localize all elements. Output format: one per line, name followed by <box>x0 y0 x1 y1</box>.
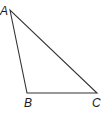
triangle-diagram: A B C <box>0 0 103 116</box>
vertex-label-c: C <box>92 96 101 110</box>
vertex-label-a: A <box>0 4 8 18</box>
triangle-abc <box>10 10 97 93</box>
vertex-label-b: B <box>24 96 32 110</box>
